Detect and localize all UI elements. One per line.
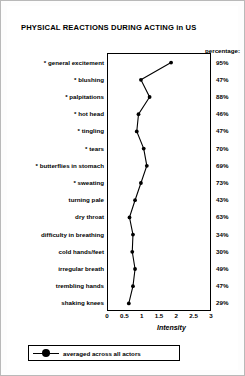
category-label: * blushing [11, 75, 107, 82]
data-point [139, 78, 143, 82]
data-point [127, 302, 131, 306]
chart-title: PHYSICAL REACTIONS DURING ACTING in US [21, 23, 226, 32]
legend-marker-icon [29, 347, 63, 359]
x-axis-tick-label: 1 [140, 312, 143, 319]
percentage-value: 30% [211, 247, 241, 254]
category-label: cold hands/feet [11, 247, 107, 254]
x-axis-tick-label: 3 [209, 312, 212, 319]
percentage-value: 95% [211, 58, 241, 65]
category-label: irregular breath [11, 265, 107, 272]
percentage-column: 95%47%88%46%47%70%69%73%43%63%34%30%49%4… [211, 53, 245, 311]
category-label-column: * general excitement* blushing* palpitat… [7, 53, 107, 311]
data-point [142, 147, 146, 151]
category-label: trembling hands [11, 282, 107, 289]
plot-area [107, 53, 211, 311]
category-label: * butterflies in stomach [11, 161, 107, 168]
percentage-value: 88% [211, 93, 241, 100]
percentage-value: 73% [211, 179, 241, 186]
data-point [130, 250, 134, 254]
category-label: turning pale [11, 196, 107, 203]
chart-legend: averaged across all actors [28, 345, 180, 361]
data-point [137, 112, 141, 116]
category-label: * tingling [11, 127, 107, 134]
percentage-value: 29% [211, 299, 241, 306]
percentage-value: 47% [211, 127, 241, 134]
data-point [148, 95, 152, 99]
data-point [133, 267, 137, 271]
data-point [145, 164, 149, 168]
x-axis-tick-label: 2.5 [189, 312, 198, 319]
x-axis-tick-label: 0.5 [120, 312, 129, 319]
data-line-series [108, 54, 212, 312]
legend-label: averaged across all actors [63, 350, 141, 357]
x-axis-tick-label: 2 [175, 312, 178, 319]
percentage-value: 34% [211, 230, 241, 237]
chart-card: PHYSICAL REACTIONS DURING ACTING in US p… [7, 6, 238, 370]
data-point [131, 284, 135, 288]
category-label: difficulty in breathing [11, 230, 107, 237]
data-point [133, 198, 137, 202]
percentage-value: 69% [211, 161, 241, 168]
percentage-value: 47% [211, 75, 241, 82]
data-point [139, 181, 143, 185]
data-point [135, 130, 139, 134]
percentage-value: 47% [211, 282, 241, 289]
category-label: dry throat [11, 213, 107, 220]
x-axis-ticks: 00.511.522.53 [107, 312, 211, 324]
x-axis-tick-label: 0 [105, 312, 108, 319]
percentage-value: 49% [211, 265, 241, 272]
x-axis-label: Intensity [157, 324, 186, 331]
category-label: * palpitations [11, 93, 107, 100]
screenshot-frame: PHYSICAL REACTIONS DURING ACTING in US p… [0, 0, 245, 376]
category-label: * tears [11, 144, 107, 151]
percentage-value: 43% [211, 196, 241, 203]
x-axis-tick-label: 1.5 [155, 312, 164, 319]
category-label: * sweating [11, 179, 107, 186]
percentage-value: 46% [211, 110, 241, 117]
data-point [169, 61, 173, 65]
data-point [128, 216, 132, 220]
category-label: * hot head [11, 110, 107, 117]
data-point [131, 233, 135, 237]
percentage-value: 63% [211, 213, 241, 220]
percentage-value: 70% [211, 144, 241, 151]
category-label: * general excitement [11, 58, 107, 65]
category-label: shaking knees [11, 299, 107, 306]
